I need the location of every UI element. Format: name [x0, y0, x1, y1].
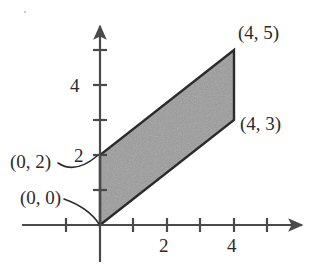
- vertex-label-4-3: (4, 3): [240, 114, 281, 133]
- parallelogram-shape: [100, 50, 234, 225]
- leader-line-0-0: [64, 199, 99, 224]
- y-axis: [93, 26, 107, 262]
- x-axis: [22, 218, 302, 232]
- x-axis-tick-label-4: 4: [227, 236, 237, 255]
- y-axis-tick-label-4: 4: [70, 76, 80, 95]
- vertex-label-4-5: (4, 5): [238, 23, 279, 42]
- vertex-label-0-0: (0, 0): [20, 188, 61, 207]
- figure-parallelogram-plot: 4 2 2 4 (4, 5) (4, 3) (0, 2) (0, 0): [0, 0, 318, 275]
- y-axis-tick-label-2: 2: [74, 146, 84, 165]
- vertex-label-0-2: (0, 2): [10, 152, 51, 171]
- annotation-leader-lines: [58, 156, 99, 224]
- x-axis-tick-label-2: 2: [159, 236, 169, 255]
